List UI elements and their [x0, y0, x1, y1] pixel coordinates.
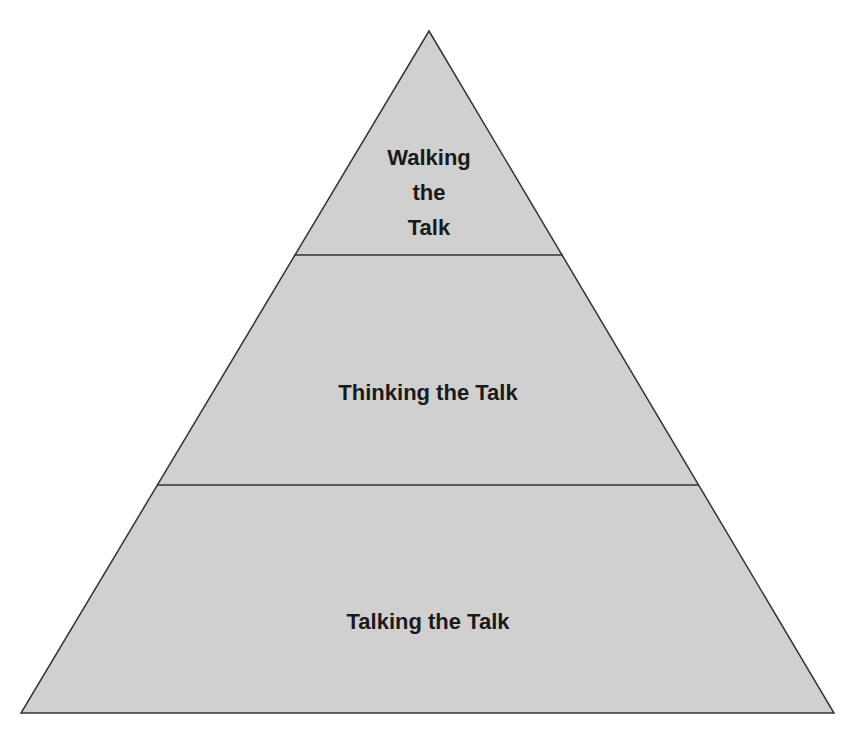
tier-top-label: Walking the Talk — [329, 140, 529, 245]
tier-bottom-label: Talking the Talk — [228, 604, 628, 639]
tier-middle-label: Thinking the Talk — [228, 375, 628, 410]
tier-top-line-2: the — [329, 175, 529, 210]
tier-top-line-3: Talk — [329, 210, 529, 245]
tier-top-line-1: Walking — [329, 140, 529, 175]
